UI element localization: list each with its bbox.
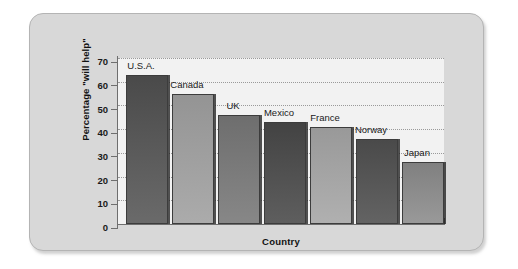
bar-label-usa: U.S.A. xyxy=(106,61,176,71)
y-tick-label-10-wrap: 10 xyxy=(70,199,108,209)
x-axis-line xyxy=(117,224,445,225)
x-axis-title: Country xyxy=(118,236,444,247)
gridline-70 xyxy=(118,58,444,59)
x-axis-end-tick xyxy=(444,218,445,225)
y-tick-label-50: 50 xyxy=(74,105,108,115)
bar-label-norway: Norway xyxy=(336,125,406,135)
bar-uk[interactable] xyxy=(218,115,260,224)
chart-figure: Percentage "will help" 0 10 20 30 40 50 … xyxy=(0,0,518,269)
y-tick-label-0-wrap: 0 xyxy=(70,223,108,233)
bar-mexico[interactable] xyxy=(264,122,306,224)
y-tick-label-60: 60 xyxy=(74,81,108,91)
bar-label-france: France xyxy=(290,113,360,123)
y-tick-label-40: 40 xyxy=(74,128,108,138)
bar-canada[interactable] xyxy=(172,94,214,224)
chart-panel: Percentage "will help" 0 10 20 30 40 50 … xyxy=(29,13,484,251)
y-tick-label-40-wrap: 40 xyxy=(70,128,108,138)
y-tick-label-50-wrap: 50 xyxy=(70,105,108,115)
bar-france[interactable] xyxy=(310,127,352,224)
y-tick-label-0: 0 xyxy=(74,223,108,233)
y-tick-label-30-wrap: 30 xyxy=(70,152,108,162)
y-tick-label-70-wrap: 70 xyxy=(70,57,108,67)
y-tick-label-60-wrap: 60 xyxy=(70,81,108,91)
y-tick-label-20: 20 xyxy=(74,176,108,186)
y-tick-label-20-wrap: 20 xyxy=(70,176,108,186)
bar-japan[interactable] xyxy=(402,162,444,224)
bar-usa[interactable] xyxy=(126,75,168,224)
bar-label-canada: Canada xyxy=(152,80,222,90)
y-tick-label-30: 30 xyxy=(74,152,108,162)
y-tick-label-10: 10 xyxy=(74,199,108,209)
bar-label-japan: Japan xyxy=(382,148,452,158)
y-tick-label-70: 70 xyxy=(74,57,108,67)
